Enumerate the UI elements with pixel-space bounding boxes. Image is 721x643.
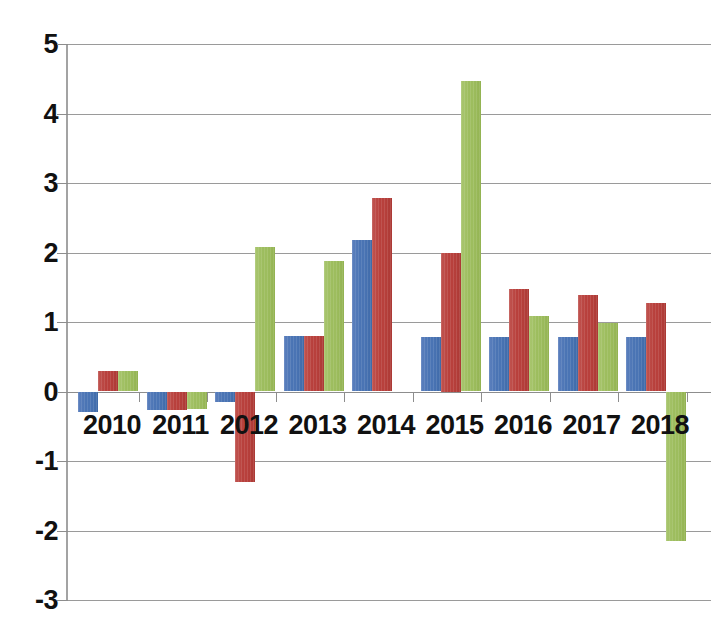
y-axis-tick-label: 0 xyxy=(12,378,58,405)
bar-series-green-2012 xyxy=(255,247,275,392)
bar-series-red-2017 xyxy=(578,295,598,392)
y-axis-tick-label: -2 xyxy=(12,517,58,544)
bar-series-red-2010 xyxy=(98,371,118,392)
bar-series-red-2016 xyxy=(509,289,529,392)
y-tick-mark--2 xyxy=(57,531,68,532)
x-tick-mark xyxy=(207,393,208,402)
x-tick-mark xyxy=(687,393,688,402)
bar-series-red-2014 xyxy=(372,198,392,391)
bar-series-green-2015 xyxy=(461,81,481,392)
y-tick-mark-5 xyxy=(57,44,68,45)
x-tick-mark xyxy=(550,393,551,402)
y-tick-mark-0 xyxy=(57,392,68,393)
y-tick-mark-4 xyxy=(57,114,68,115)
y-axis-tick-label: 2 xyxy=(12,239,58,266)
bar-series-blue-2014 xyxy=(352,240,372,392)
y-axis-tick-label: 1 xyxy=(12,309,58,336)
bar-series-green-2013 xyxy=(324,261,344,392)
bar-group-2012 xyxy=(215,0,284,643)
x-tick-mark xyxy=(139,393,140,402)
bar-series-blue-2015 xyxy=(421,337,441,391)
bar-series-green-2011 xyxy=(187,392,207,409)
bar-series-blue-2013 xyxy=(284,336,304,392)
bar-group-2013 xyxy=(284,0,353,643)
bar-series-green-2016 xyxy=(529,316,549,391)
bar-series-red-2013 xyxy=(304,336,324,392)
bar-series-green-2017 xyxy=(598,323,618,391)
y-axis-tick-label: -1 xyxy=(12,448,58,475)
x-axis-tick-label-2018: 2018 xyxy=(618,410,702,441)
bar-series-blue-2016 xyxy=(489,337,509,391)
y-tick-mark-1 xyxy=(57,322,68,323)
y-tick-mark-3 xyxy=(57,183,68,184)
bar-group-2015 xyxy=(421,0,490,643)
x-tick-mark xyxy=(276,393,277,402)
bar-series-green-2010 xyxy=(118,371,138,392)
bar-group-2011 xyxy=(147,0,216,643)
y-axis-tick-label: -3 xyxy=(12,587,58,614)
bar-group-2016 xyxy=(489,0,558,643)
bar-group-2010 xyxy=(78,0,147,643)
bar-series-blue-2010 xyxy=(78,392,98,412)
y-tick-mark-2 xyxy=(57,253,68,254)
y-tick-mark--3 xyxy=(57,600,68,601)
y-axis-labels: 543210-1-2-3 xyxy=(0,0,58,643)
bar-series-blue-2018 xyxy=(626,337,646,391)
y-axis-tick-label: 4 xyxy=(12,100,58,127)
plot-area: 201020112012201320142015201620172018 xyxy=(66,0,711,643)
bar-group-2018 xyxy=(626,0,695,643)
bar-chart: 543210-1-2-3 201020112012201320142015201… xyxy=(0,0,721,643)
bar-series-red-2018 xyxy=(646,303,666,392)
bar-group-2014 xyxy=(352,0,421,643)
y-axis-tick-label: 3 xyxy=(12,170,58,197)
x-tick-mark xyxy=(413,393,414,402)
bar-series-red-2015 xyxy=(441,253,461,392)
x-tick-mark xyxy=(618,393,619,402)
bar-series-blue-2011 xyxy=(147,392,167,411)
x-tick-mark xyxy=(344,393,345,402)
y-axis-tick-label: 5 xyxy=(12,31,58,58)
bar-series-blue-2017 xyxy=(558,337,578,391)
y-tick-mark--1 xyxy=(57,461,68,462)
bar-series-red-2011 xyxy=(167,392,187,410)
x-tick-mark xyxy=(481,393,482,402)
bar-group-2017 xyxy=(558,0,627,643)
bar-series-blue-2012 xyxy=(215,392,235,402)
